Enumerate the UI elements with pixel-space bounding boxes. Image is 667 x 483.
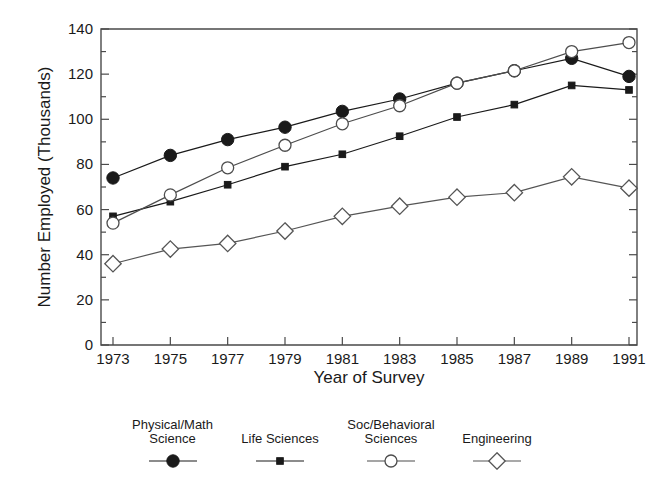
data-point-open-circle <box>164 189 176 201</box>
data-point-open-diamond <box>162 241 178 257</box>
chart-legend: Physical/Math ScienceLife SciencesSoc/Be… <box>120 418 620 478</box>
legend-symbol <box>385 455 397 467</box>
y-tick-label: 80 <box>47 156 93 171</box>
axis-ticks <box>101 29 637 345</box>
y-tick-label: 40 <box>47 247 93 262</box>
data-point-open-circle <box>279 139 291 151</box>
data-series <box>107 52 635 184</box>
y-tick-label: 60 <box>47 202 93 217</box>
data-point-open-diamond <box>449 189 465 205</box>
x-tick-label: 1981 <box>312 351 372 366</box>
legend-item-label: Soc/Behavioral Sciences <box>347 418 434 446</box>
data-point-open-circle <box>508 65 520 77</box>
data-point-open-diamond <box>506 184 522 200</box>
data-point-filled-circle <box>164 149 176 161</box>
data-point-open-diamond <box>563 169 579 185</box>
legend-marker-filled-circle <box>145 452 201 470</box>
legend-symbol <box>166 455 178 467</box>
plot-frame <box>101 29 637 345</box>
y-tick-label: 100 <box>47 111 93 126</box>
data-point-filled-circle <box>623 70 635 82</box>
x-tick-label: 1975 <box>140 351 200 366</box>
data-point-open-circle <box>107 217 119 229</box>
legend-marker-open-circle <box>363 452 419 470</box>
data-point-open-circle <box>451 77 463 89</box>
legend-item-label: Physical/Math Science <box>132 418 213 446</box>
x-tick-label: 1973 <box>83 351 143 366</box>
x-tick-label: 1979 <box>255 351 315 366</box>
data-point-open-diamond <box>621 180 637 196</box>
data-point-filled-circle <box>279 121 291 133</box>
data-point-filled-square <box>511 101 518 108</box>
data-point-filled-square <box>339 151 346 158</box>
x-tick-label: 1991 <box>599 351 659 366</box>
data-point-filled-circle <box>221 133 233 145</box>
data-point-filled-square <box>568 82 575 89</box>
data-point-filled-square <box>224 181 231 188</box>
data-point-open-diamond <box>334 208 350 224</box>
legend-marker-filled-square <box>252 452 308 470</box>
chart-figure: Number Employed (Thousands) Year of Surv… <box>0 0 667 483</box>
series-line <box>113 58 629 178</box>
data-series <box>107 37 635 230</box>
legend-item[interactable]: Life Sciences <box>225 418 335 470</box>
y-tick-label: 140 <box>47 21 93 36</box>
data-point-filled-square <box>282 163 289 170</box>
x-tick-label: 1987 <box>484 351 544 366</box>
x-tick-label: 1983 <box>370 351 430 366</box>
data-series-group <box>105 37 637 272</box>
data-point-open-circle <box>394 100 406 112</box>
y-tick-label: 120 <box>47 66 93 81</box>
x-tick-label: 1977 <box>198 351 258 366</box>
data-point-open-diamond <box>219 235 235 251</box>
data-point-open-diamond <box>391 198 407 214</box>
legend-item-label: Life Sciences <box>241 432 318 446</box>
legend-symbol <box>277 458 284 465</box>
data-point-filled-square <box>626 87 633 94</box>
y-tick-label: 0 <box>47 337 93 352</box>
legend-item[interactable]: Physical/Math Science <box>120 418 225 470</box>
data-series <box>105 169 637 272</box>
data-point-open-diamond <box>105 256 121 272</box>
series-line <box>113 177 629 264</box>
data-point-open-diamond <box>277 223 293 239</box>
data-point-filled-circle <box>336 105 348 117</box>
legend-item[interactable]: Engineering <box>447 418 547 470</box>
data-point-open-circle <box>566 46 578 58</box>
data-point-filled-circle <box>107 172 119 184</box>
data-point-filled-square <box>454 114 461 121</box>
legend-item-label: Engineering <box>462 432 531 446</box>
legend-symbol <box>489 453 505 469</box>
data-point-open-circle <box>222 162 234 174</box>
legend-item[interactable]: Soc/Behavioral Sciences <box>335 418 447 470</box>
y-tick-label: 20 <box>47 292 93 307</box>
plot-area <box>0 0 667 400</box>
data-point-open-circle <box>623 37 635 49</box>
data-point-open-circle <box>336 118 348 130</box>
x-tick-label: 1989 <box>542 351 602 366</box>
data-point-filled-square <box>396 133 403 140</box>
plot-border <box>101 29 637 345</box>
x-tick-label: 1985 <box>427 351 487 366</box>
legend-marker-open-diamond <box>469 452 525 470</box>
